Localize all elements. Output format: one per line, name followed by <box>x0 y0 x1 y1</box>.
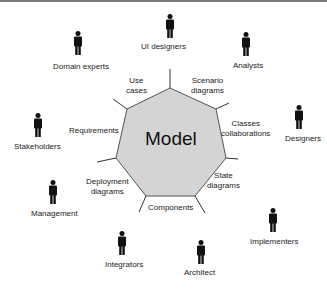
role-label-management: Management <box>31 209 78 219</box>
person-icon-implementers <box>269 208 277 232</box>
person-icon-architect <box>197 240 205 264</box>
role-label-ui-designers: UI designers <box>141 42 186 52</box>
role-label-designers: Designers <box>285 134 321 144</box>
view-label-deployment-diagrams: Deployment diagrams <box>86 177 129 197</box>
role-label-architect: Architect <box>184 268 215 278</box>
role-label-domain-experts: Domain experts <box>53 62 109 72</box>
person-icon-integrators <box>118 231 126 255</box>
person-icon-designers <box>295 105 303 129</box>
view-label-requirements: Requirements <box>69 126 119 136</box>
model-label: Model <box>145 128 197 150</box>
person-icon-analysts <box>242 32 250 56</box>
view-label-components: Components <box>148 203 193 213</box>
view-label-classes-collaborations: Classes collaborations <box>221 119 270 139</box>
person-icon-management <box>49 180 57 204</box>
role-label-stakeholders: Stakeholders <box>14 142 61 152</box>
role-label-analysts: Analysts <box>233 61 263 71</box>
view-label-state-diagrams: State diagrams <box>207 171 240 191</box>
view-label-scenario-diagrams: Scenario diagrams <box>191 76 224 96</box>
person-icon-ui-designers <box>166 14 174 38</box>
person-icon-stakeholders <box>34 113 42 137</box>
view-label-use-cases: Use cases <box>126 76 147 96</box>
role-label-integrators: Integrators <box>105 260 143 270</box>
person-icon-domain-experts <box>74 31 82 55</box>
role-label-implementers: Implementers <box>250 237 298 247</box>
